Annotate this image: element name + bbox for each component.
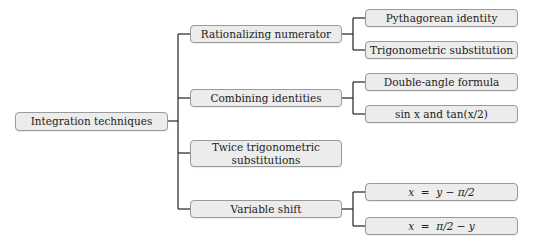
node-x-equals-y-minus-pi-over-2[interactable]: x = y − π/2 [365, 183, 518, 201]
node-variable-shift[interactable]: Variable shift [190, 200, 342, 218]
node-double-angle-formula[interactable]: Double-angle formula [365, 73, 518, 91]
node-sin-x-and-tan-x-over-2[interactable]: sin x and tan(x/2) [365, 105, 518, 123]
node-rationalizing-numerator[interactable]: Rationalizing numerator [190, 25, 342, 43]
node-pythagorean-identity[interactable]: Pythagorean identity [365, 9, 518, 27]
root-node[interactable]: Integration techniques [15, 112, 168, 131]
node-combining-identities[interactable]: Combining identities [190, 89, 342, 107]
node-twice-trig-substitutions[interactable]: Twice trigonometric substitutions [190, 140, 342, 167]
node-trigonometric-substitution[interactable]: Trigonometric substitution [365, 41, 518, 59]
node-x-equals-pi-over-2-minus-y[interactable]: x = π/2 − y [365, 217, 518, 235]
